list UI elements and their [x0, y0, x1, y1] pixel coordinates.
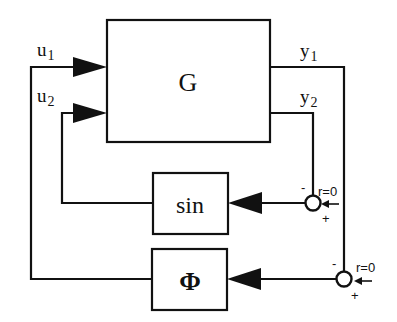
sin-junction-plus: + [322, 211, 330, 226]
phi-label: Φ [179, 267, 201, 296]
phi-junction-minus: - [332, 256, 336, 271]
phi-summing-junction [337, 272, 352, 287]
phi-junction-reference: r=0 [356, 260, 375, 275]
y1-label: y1 [300, 40, 318, 64]
sin-input-arrow-icon [228, 192, 262, 214]
u1-label: u1 [37, 39, 55, 63]
y2-label: y2 [300, 86, 318, 110]
sin-label: sin [176, 192, 204, 218]
plant-label: G [179, 68, 198, 97]
u2-label: u2 [37, 85, 55, 109]
u1-arrow-icon [73, 57, 107, 77]
u2-arrow-icon [73, 103, 107, 123]
sin-junction-minus: - [301, 180, 305, 195]
y2-signal-line [270, 113, 313, 196]
phi-input-arrow-icon [227, 268, 261, 290]
phi-reference-arrow-icon [354, 277, 362, 285]
feedback-block-diagram: G sin Φ u1 u2 y1 y2 - + r=0 - + r=0 [0, 0, 397, 322]
sin-junction-reference: r=0 [318, 184, 337, 199]
sin-reference-arrow-icon [321, 200, 329, 208]
phi-junction-plus: + [351, 288, 359, 303]
